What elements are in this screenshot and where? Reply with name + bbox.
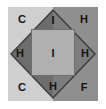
geometric-figure: C H C F I H H H I	[0, 0, 106, 109]
label-corner-bottom-left: C	[15, 82, 29, 93]
label-corner-bottom-right: F	[77, 82, 91, 93]
label-vertex-right: H	[78, 48, 92, 59]
label-corner-top-right: H	[77, 14, 91, 25]
label-vertex-bottom: H	[46, 81, 60, 92]
label-vertex-left: H	[13, 48, 27, 59]
label-vertex-top: I	[46, 15, 60, 26]
label-corner-top-left: C	[15, 14, 29, 25]
figure-panel: C H C F I H H H I	[8, 7, 98, 101]
label-center: I	[46, 48, 60, 59]
